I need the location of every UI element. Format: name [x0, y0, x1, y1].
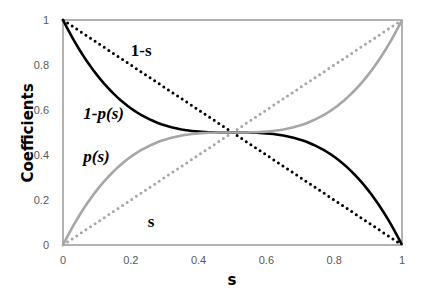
x-tick-label: 1: [399, 254, 405, 266]
x-tick-label: 0.2: [123, 254, 138, 266]
x-tick-label: 0.8: [327, 254, 342, 266]
y-tick-label: 0.8: [34, 59, 49, 71]
series-group: [63, 20, 402, 245]
y-tick-label: 0.2: [34, 194, 49, 206]
annotation-label: 1-s: [131, 41, 152, 60]
x-tick-labels: 00.20.40.60.81: [60, 254, 405, 266]
annotation-label: 1-p(s): [83, 104, 124, 123]
y-tick-label: 0: [43, 239, 49, 251]
coefficients-chart: 00.20.40.60.81 00.20.40.60.81 1-s1-p(s)p…: [0, 0, 426, 299]
x-tick-label: 0.4: [191, 254, 206, 266]
x-axis-label: s: [228, 271, 237, 289]
y-tick-label: 1: [43, 14, 49, 26]
annotation-label: p(s): [81, 147, 109, 166]
x-tick-label: 0.6: [259, 254, 274, 266]
annotation-label: s: [148, 212, 155, 231]
x-tick-label: 0: [60, 254, 66, 266]
y-axis-label: Coefficients: [19, 83, 37, 182]
